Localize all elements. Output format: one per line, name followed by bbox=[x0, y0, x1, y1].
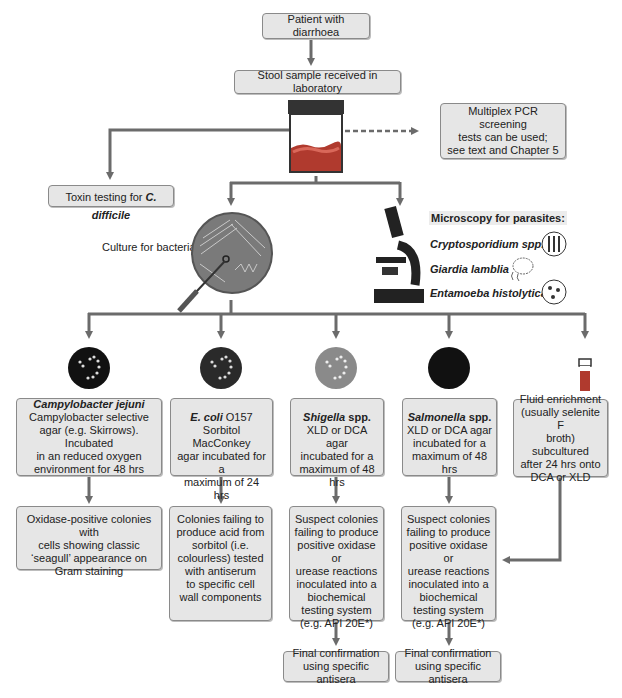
toxin-node: Toxin testing for C. difficile bbox=[48, 185, 174, 207]
pcr-line: see text and Chapter 5 bbox=[447, 144, 558, 157]
ecoli-medium-node: E. coli O157 Sorbitol MacConkey agar inc… bbox=[170, 398, 273, 476]
final-line: using specific antisera bbox=[400, 660, 496, 686]
salmonella-medium-node: Salmonella spp. XLD or DCA agar incubate… bbox=[402, 398, 497, 476]
result-line: produce acid from bbox=[176, 526, 264, 539]
patient-label: Patient with diarrhoea bbox=[267, 13, 365, 39]
medium-line: XLD or DCA agar bbox=[295, 424, 379, 450]
result-line: colourless) tested bbox=[177, 552, 263, 565]
medium-line: environment for 48 hrs bbox=[34, 463, 144, 476]
parasite-giardia: Giardia lamblia bbox=[430, 262, 509, 276]
medium-line: maximum of 24 hrs bbox=[175, 476, 268, 502]
result-line: (e.g. API 20E*) bbox=[412, 617, 485, 630]
medium-line: in an reduced oxygen bbox=[36, 450, 141, 463]
shigella-final-node: Final confirmation using specific antise… bbox=[283, 651, 389, 682]
organism-suffix: spp. bbox=[466, 411, 492, 423]
toxin-label: Toxin testing for bbox=[65, 191, 145, 203]
result-line: inoculated into a bbox=[296, 578, 376, 591]
organism-name: Salmonella bbox=[408, 411, 466, 423]
ecoli-plate-icon bbox=[198, 345, 244, 391]
parasite-entamoeba: Entamoeba histolytica bbox=[430, 286, 547, 300]
result-line: failing to produce bbox=[407, 526, 491, 539]
result-line: wall components bbox=[180, 591, 262, 604]
result-line: cells showing classic bbox=[38, 539, 139, 552]
giardia-icon bbox=[508, 252, 538, 282]
result-line: inoculated into a bbox=[408, 578, 488, 591]
organism-name: Campylobacter jejuni bbox=[33, 398, 144, 410]
medium-line: DCA or XLD bbox=[531, 471, 591, 484]
medium-line: XLD or DCA agar bbox=[407, 424, 492, 437]
result-line: sorbitol (i.e. bbox=[192, 539, 249, 552]
result-line: biochemical bbox=[419, 591, 477, 604]
stool-sample-label: Stool sample received in laboratory bbox=[239, 69, 396, 95]
result-line: urease reactions bbox=[408, 565, 489, 578]
result-line: Suspect colonies bbox=[407, 513, 490, 526]
medium-line: broth) subcultured bbox=[518, 432, 603, 458]
result-line: to specific cell bbox=[186, 578, 254, 591]
result-line: ‘seagull’ appearance on bbox=[31, 552, 147, 565]
campylobacter-medium-node: Campylobacter jejuni Campylobacter selec… bbox=[16, 398, 162, 476]
culture-plate-icon bbox=[175, 208, 285, 338]
campylobacter-plate-icon bbox=[66, 345, 112, 391]
result-line: positive oxidase or bbox=[406, 539, 491, 565]
organism-name: E. coli bbox=[190, 411, 222, 423]
result-line: with antiserum bbox=[185, 565, 256, 578]
result-line: (e.g. API 20E*) bbox=[300, 617, 373, 630]
fluid-enrichment-node: Fluid enrichment (usually selenite F bro… bbox=[513, 399, 608, 477]
microscope-icon bbox=[370, 205, 430, 305]
result-line: Oxidase-positive colonies with bbox=[21, 513, 157, 539]
shigella-plate-icon bbox=[313, 345, 359, 391]
result-line: Colonies failing to bbox=[177, 513, 264, 526]
medium-line: after 24 hrs onto bbox=[520, 458, 600, 471]
organism-name: Shigella bbox=[303, 411, 345, 423]
shigella-medium-node: Shigella spp. XLD or DCA agar incubated … bbox=[290, 398, 384, 476]
result-line: testing system bbox=[413, 604, 483, 617]
final-line: Final confirmation bbox=[293, 647, 380, 660]
shigella-result-node: Suspect colonies failing to produce posi… bbox=[289, 506, 384, 621]
result-line: Suspect colonies bbox=[295, 513, 378, 526]
result-line: failing to produce bbox=[295, 526, 379, 539]
campylobacter-result-node: Oxidase-positive colonies with cells sho… bbox=[16, 506, 162, 570]
broth-tube-icon bbox=[577, 358, 593, 392]
stool-jar-icon bbox=[287, 98, 345, 176]
stool-sample-node: Stool sample received in laboratory bbox=[234, 70, 401, 94]
result-line: urease reactions bbox=[296, 565, 377, 578]
final-line: using specific antisera bbox=[288, 660, 384, 686]
pcr-line: Multiplex PCR screening bbox=[445, 105, 561, 131]
salmonella-final-node: Final confirmation using specific antise… bbox=[395, 651, 501, 682]
ecoli-result-node: Colonies failing to produce acid from so… bbox=[169, 506, 272, 621]
microscopy-title: Microscopy for parasites: bbox=[429, 211, 567, 225]
salmonella-result-node: Suspect colonies failing to produce posi… bbox=[401, 506, 496, 621]
medium-line: Campylobacter selective bbox=[29, 411, 149, 424]
result-line: Gram staining bbox=[55, 565, 123, 578]
pcr-node: Multiplex PCR screening tests can be use… bbox=[440, 103, 566, 159]
medium-line: agar incubated for a bbox=[175, 450, 268, 476]
medium-line: (usually selenite F bbox=[518, 406, 603, 432]
medium-line: Fluid enrichment bbox=[520, 393, 601, 406]
salmonella-plate-icon bbox=[426, 345, 472, 391]
organism-suffix: O157 bbox=[223, 411, 253, 423]
result-line: testing system bbox=[301, 604, 371, 617]
medium-line: incubated for a bbox=[301, 450, 374, 463]
medium-line: Sorbitol MacConkey bbox=[175, 424, 268, 450]
parasite-icons bbox=[540, 230, 568, 310]
medium-line: maximum of 48 hrs bbox=[407, 450, 492, 476]
pcr-line: tests can be used; bbox=[458, 131, 547, 144]
medium-line: maximum of 48 hrs bbox=[295, 463, 379, 489]
patient-node: Patient with diarrhoea bbox=[262, 13, 370, 39]
result-line: positive oxidase or bbox=[294, 539, 379, 565]
result-line: biochemical bbox=[307, 591, 365, 604]
final-line: Final confirmation bbox=[405, 647, 492, 660]
medium-line: agar (e.g. Skirrows). Incubated bbox=[21, 424, 157, 450]
medium-line: incubated for a bbox=[413, 437, 486, 450]
parasite-cryptosporidium: Cryptosporidium spp. bbox=[430, 237, 544, 251]
organism-suffix: spp. bbox=[345, 411, 371, 423]
